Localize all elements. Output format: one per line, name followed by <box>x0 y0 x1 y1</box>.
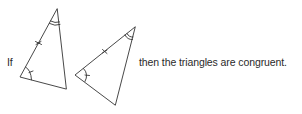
triangle-1 <box>20 9 66 89</box>
if-label: If <box>7 56 13 68</box>
triangle-2 <box>75 27 135 105</box>
triangle-1-angle-arc-single <box>26 67 32 80</box>
triangle-2-outline <box>75 27 135 105</box>
conclusion-label: then the triangles are congruent. <box>139 56 287 68</box>
triangle-1-outline <box>20 9 66 89</box>
